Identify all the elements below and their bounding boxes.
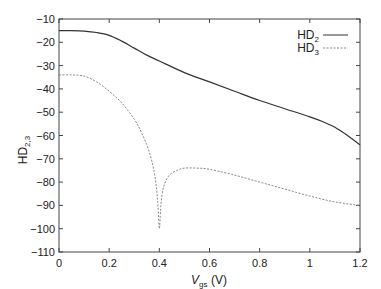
y-tick-label: −20: [36, 36, 55, 48]
y-axis-label-subscript: 2,3: [23, 135, 32, 147]
y-tick-label: −90: [36, 199, 55, 211]
x-tick-label: 0.6: [202, 257, 217, 269]
y-tick-label: −40: [36, 83, 55, 95]
y-tick-label: −60: [36, 130, 55, 142]
line-chart: −10−20−30−40−50−60−70−80−90−100−110 00.2…: [0, 0, 381, 289]
x-tick-label: 1: [307, 257, 313, 269]
y-tick-label: −110: [31, 246, 55, 258]
x-tick-label: 0: [56, 257, 62, 269]
y-tick-label: −80: [36, 176, 55, 188]
y-tick-label: −30: [36, 60, 55, 72]
legend: HD2HD3: [297, 28, 348, 57]
x-axis-label: Vgs (V): [191, 273, 227, 289]
series-line-hd3: [59, 75, 360, 229]
x-tick-label: 1.2: [352, 257, 367, 269]
x-tick-label: 0.2: [102, 257, 117, 269]
y-tick-label: −50: [36, 106, 55, 118]
x-tick-label: 0.8: [252, 257, 267, 269]
x-axis-label-subscript: gs: [199, 280, 207, 289]
x-axis-ticks: 00.20.40.60.811.2: [56, 19, 368, 269]
x-tick-label: 0.4: [152, 257, 167, 269]
y-tick-label: −70: [36, 153, 55, 165]
y-tick-label: −100: [30, 223, 55, 235]
y-tick-label: −10: [36, 13, 55, 25]
series-layer: [59, 31, 360, 229]
y-axis-label: HD2,3: [16, 135, 32, 164]
